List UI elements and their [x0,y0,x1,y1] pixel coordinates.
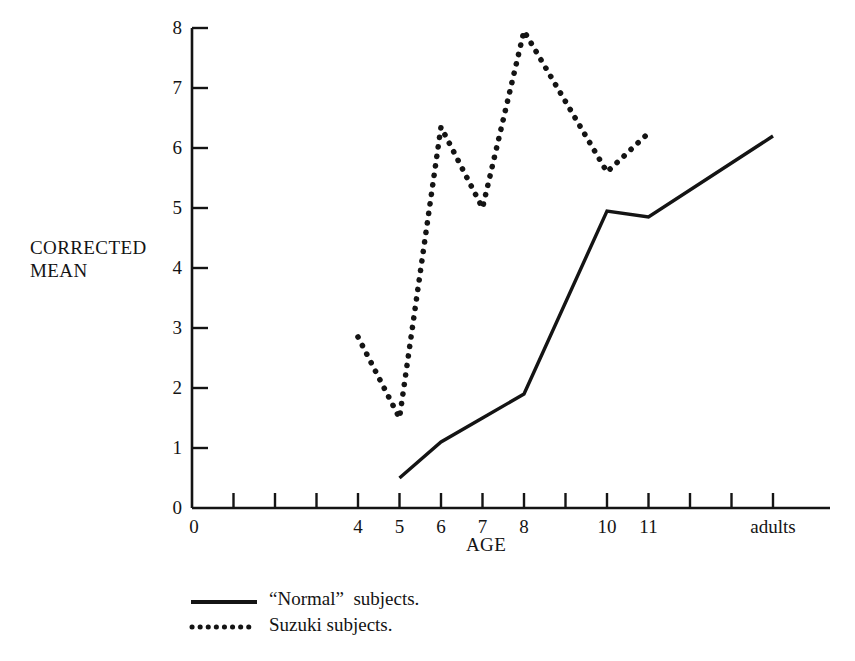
legend-swatch-dotted-line [189,614,259,640]
axis-ticks [192,28,773,508]
y-tick-label: 3 [156,317,182,339]
x-tick-label: adults [750,516,795,538]
x-tick-label: 5 [395,516,405,538]
legend-swatch-solid-line [189,588,259,614]
y-axis-title: CORRECTED MEAN [30,236,147,282]
x-tick-label-origin: 0 [189,516,199,538]
legend-label-suzuki: Suzuki subjects. [269,614,393,636]
y-tick-label: 2 [156,377,182,399]
x-tick-label: 10 [598,516,617,538]
y-tick-label: 1 [156,437,182,459]
chart-figure: CORRECTED MEAN AGE 012345678 0456781011a… [0,0,855,661]
plot-area [0,0,855,661]
y-tick-label: 0 [156,497,182,519]
x-tick-label: 11 [639,516,657,538]
x-tick-label: 6 [436,516,446,538]
chart-legend: “Normal” subjects. Suzuki subjects. [189,588,609,640]
series-line-normal [400,136,774,478]
legend-label-normal: “Normal” subjects. [269,588,419,610]
data-series [358,31,773,478]
legend-item-normal: “Normal” subjects. [189,588,609,614]
x-tick-label: 7 [478,516,488,538]
series-line-suzuki [358,31,649,418]
y-tick-label: 7 [156,77,182,99]
legend-item-suzuki: Suzuki subjects. [189,614,609,640]
axes [192,28,830,508]
y-tick-label: 5 [156,197,182,219]
x-tick-label: 8 [519,516,529,538]
y-tick-label: 8 [156,17,182,39]
x-tick-label: 4 [353,516,363,538]
y-tick-label: 4 [156,257,182,279]
y-tick-label: 6 [156,137,182,159]
